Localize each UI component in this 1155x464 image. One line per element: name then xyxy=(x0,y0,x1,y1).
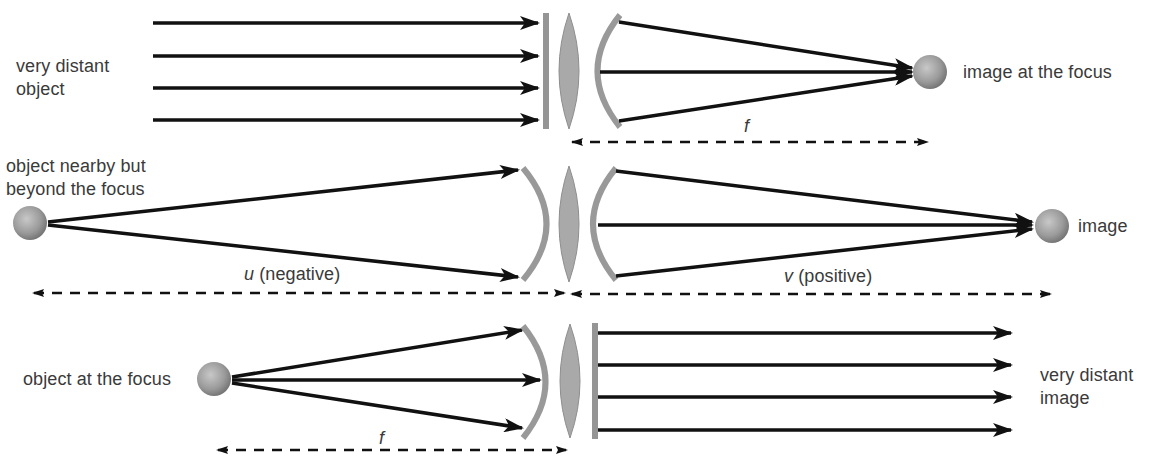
label-very-distant-object-line1: very distant xyxy=(16,55,109,77)
label-object-at-focus: object at the focus xyxy=(23,368,171,390)
u-symbol: u xyxy=(244,264,254,284)
incoming-parallel-rays xyxy=(153,23,538,120)
outgoing-parallel-rays xyxy=(598,333,1011,430)
dimension-arrow-right xyxy=(556,446,568,454)
label-v-positive: v (positive) xyxy=(784,265,872,287)
label-focal-length-top: f xyxy=(744,115,749,137)
label-u-negative: u (negative) xyxy=(244,263,340,285)
panel-middle xyxy=(13,166,1069,298)
label-object-nearby-line1: object nearby but xyxy=(6,155,146,177)
panel-top xyxy=(153,13,947,146)
image-sphere xyxy=(1035,209,1069,243)
image-sphere xyxy=(913,55,947,89)
u-text: (negative) xyxy=(254,264,340,284)
diverging-rays xyxy=(232,330,540,428)
converging-lens xyxy=(560,324,580,438)
label-very-distant-image-line1: very distant xyxy=(1040,364,1133,386)
ray-arrow xyxy=(619,22,912,68)
ray-arrow xyxy=(232,383,522,428)
ray-arrow xyxy=(619,76,912,121)
lens-diagram: very distant object image at the focus f… xyxy=(0,0,1155,464)
label-image: image xyxy=(1078,215,1128,237)
panel-bottom xyxy=(197,323,1011,454)
label-image-at-focus: image at the focus xyxy=(963,61,1112,83)
label-focal-length-bottom: f xyxy=(379,427,384,449)
v-text: (positive) xyxy=(793,266,872,286)
flat-wavefront-bar xyxy=(543,13,549,129)
ray-arrow xyxy=(616,171,1032,222)
label-object-nearby-line2: beyond the focus xyxy=(6,178,145,200)
dimension-arrow-right xyxy=(554,289,566,297)
converging-lens xyxy=(559,166,579,282)
converging-rays xyxy=(600,22,912,121)
ray-arrow xyxy=(232,330,522,377)
diverging-wavefront xyxy=(523,326,546,438)
flat-wavefront-bar xyxy=(592,323,598,439)
converging-lens xyxy=(559,13,579,129)
label-very-distant-image-line2: image xyxy=(1040,387,1090,409)
converging-rays xyxy=(598,171,1032,276)
object-sphere xyxy=(197,362,231,396)
label-very-distant-object-line2: object xyxy=(16,78,65,100)
v-symbol: v xyxy=(784,266,793,286)
object-sphere xyxy=(13,206,47,240)
diverging-wavefront xyxy=(523,168,547,280)
